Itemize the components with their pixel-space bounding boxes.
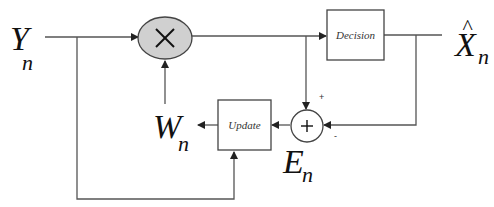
error-signal-label: E n bbox=[282, 143, 313, 187]
output-signal-label: X ^ n bbox=[453, 14, 489, 69]
weight-subscript: n bbox=[178, 131, 189, 156]
adaptive-equalizer-diagram: Decision Update + - Y n X ^ n W n E n bbox=[0, 0, 494, 207]
update-block: Update bbox=[218, 100, 271, 150]
minus-sign-label: - bbox=[334, 131, 337, 141]
output-subscript: n bbox=[478, 44, 489, 69]
weight-signal-label: W n bbox=[153, 108, 189, 156]
error-subscript: n bbox=[302, 162, 313, 187]
plus-sign-label: + bbox=[319, 92, 324, 102]
decision-block: Decision bbox=[327, 10, 384, 60]
input-subscript: n bbox=[22, 50, 33, 75]
summing-junction: + - bbox=[291, 92, 337, 142]
update-label: Update bbox=[228, 119, 261, 131]
decision-label: Decision bbox=[335, 29, 376, 41]
error-symbol: E bbox=[282, 143, 304, 180]
multiplier-node bbox=[138, 17, 192, 59]
input-signal-label: Y n bbox=[10, 20, 33, 75]
